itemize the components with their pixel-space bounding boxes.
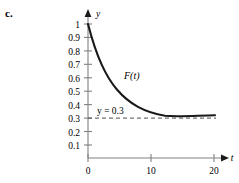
y-tick-label-0-9: 0.9 bbox=[68, 33, 80, 43]
y-axis-label: y bbox=[95, 9, 101, 19]
x-tick-label-0: 0 bbox=[86, 166, 91, 176]
y-tick-label-0-6: 0.6 bbox=[68, 74, 80, 84]
y-axis-arrow-icon bbox=[85, 9, 92, 17]
x-tick-label-10: 10 bbox=[146, 166, 156, 176]
x-tick-label-20: 20 bbox=[209, 166, 219, 176]
figure-panel: c. 1 0.9 0.8 0.7 0.6 0.5 0.4 bbox=[0, 0, 239, 183]
asymptote-label: y = 0.3 bbox=[97, 106, 124, 116]
curve-label: F(t) bbox=[123, 70, 140, 82]
y-tick-label-0-8: 0.8 bbox=[68, 47, 80, 57]
y-tick-label-0-3: 0.3 bbox=[68, 114, 80, 124]
x-axis-label: t bbox=[231, 153, 234, 163]
x-axis-arrow-icon bbox=[221, 155, 229, 162]
function-curve bbox=[88, 24, 215, 116]
y-tick-label-0-7: 0.7 bbox=[68, 60, 80, 70]
y-tick-label-0-4: 0.4 bbox=[68, 101, 80, 111]
y-tick-label-0-1: 0.1 bbox=[68, 141, 80, 151]
y-tick-label-0-2: 0.2 bbox=[68, 128, 80, 138]
graph-canvas: 1 0.9 0.8 0.7 0.6 0.5 0.4 0.3 0.2 0.1 0 … bbox=[0, 0, 239, 183]
y-tick-label-1: 1 bbox=[75, 20, 80, 30]
y-tick-label-0-5: 0.5 bbox=[68, 87, 80, 97]
